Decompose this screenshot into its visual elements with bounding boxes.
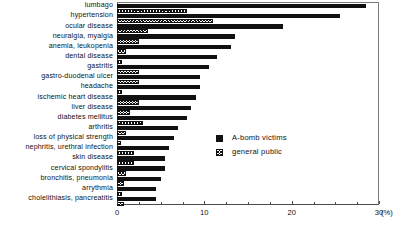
bar-a-bomb-victims <box>117 136 174 140</box>
bar-a-bomb-victims <box>117 65 209 69</box>
x-tick-minor <box>139 202 140 204</box>
bar-a-bomb-victims <box>117 126 178 130</box>
bar-a-bomb-victims <box>117 24 283 28</box>
bar-general-public <box>117 70 139 74</box>
bar-a-bomb-victims <box>117 14 340 18</box>
bar-general-public <box>117 161 134 165</box>
bar-a-bomb-victims <box>117 55 217 59</box>
bar-a-bomb-victims <box>117 75 200 79</box>
category-label: bronchitis, pneumonia <box>0 174 113 182</box>
category-label: skin disease <box>0 153 113 161</box>
bar-group <box>117 106 379 116</box>
bar-a-bomb-victims <box>117 85 200 89</box>
bar-a-bomb-victims <box>117 116 187 120</box>
bar-group <box>117 55 379 65</box>
bar-a-bomb-victims <box>117 106 191 110</box>
bar-general-public <box>117 171 126 175</box>
bar-general-public <box>117 121 143 125</box>
legend-swatch-solid-icon <box>216 135 223 142</box>
bar-a-bomb-victims <box>117 156 165 160</box>
x-tick-minor <box>335 202 336 204</box>
bar-general-public <box>117 19 213 23</box>
category-label: anemia, leukopenia <box>0 42 113 50</box>
x-tick-major <box>204 201 205 204</box>
bar-a-bomb-victims <box>117 187 156 191</box>
category-label: liver disease <box>0 103 113 111</box>
bar-general-public <box>117 29 148 33</box>
bar-general-public <box>117 131 126 135</box>
x-tick-major <box>379 201 380 204</box>
bar-group <box>117 4 379 14</box>
x-axis-unit-label: (%) <box>381 208 393 217</box>
bar-a-bomb-victims <box>117 197 156 201</box>
category-label: lumbago <box>0 1 113 9</box>
legend-swatch-hatch-icon <box>216 149 223 156</box>
bar-group <box>117 65 379 75</box>
bar-a-bomb-victims <box>117 4 366 8</box>
x-tick-minor <box>161 202 162 204</box>
bar-group <box>117 85 379 95</box>
bar-general-public <box>117 100 139 104</box>
category-label: neuralgia, myalgia <box>0 32 113 40</box>
bar-general-public <box>117 80 139 84</box>
x-tick-label: 0 <box>115 208 119 217</box>
bar-group <box>117 45 379 55</box>
category-label: arrythmia <box>0 184 113 192</box>
bar-general-public <box>117 39 139 43</box>
bar-general-public <box>117 90 122 94</box>
bar-group <box>117 75 379 85</box>
bar-a-bomb-victims <box>117 45 231 49</box>
bar-group <box>117 14 379 24</box>
x-tick-minor <box>314 202 315 204</box>
bar-a-bomb-victims <box>117 34 235 38</box>
category-label: arthritis <box>0 123 113 131</box>
bar-group <box>117 24 379 34</box>
legend-label-general-public: general public <box>232 147 282 156</box>
bar-general-public <box>117 141 121 145</box>
category-label: cholelithiasis, pancreatitis <box>0 194 113 202</box>
x-tick-major <box>117 201 118 204</box>
bar-group <box>117 34 379 44</box>
bar-general-public <box>117 49 126 53</box>
bar-general-public <box>117 202 124 206</box>
x-tick-minor <box>270 202 271 204</box>
bar-general-public <box>117 192 122 196</box>
x-tick-minor <box>248 202 249 204</box>
bar-general-public <box>117 60 122 64</box>
x-tick-label: 10 <box>200 208 208 217</box>
plot-area <box>117 2 379 205</box>
category-label: ocular disease <box>0 22 113 30</box>
bar-general-public <box>117 151 134 155</box>
category-label: gastritis <box>0 62 113 70</box>
category-label: diabetes mellitus <box>0 113 113 121</box>
bar-group <box>117 187 379 197</box>
bar-a-bomb-victims <box>117 166 165 170</box>
category-label: loss of physical strength <box>0 133 113 141</box>
bar-a-bomb-victims <box>117 146 169 150</box>
category-label: hypertension <box>0 11 113 19</box>
bar-a-bomb-victims <box>117 177 161 181</box>
bar-group <box>117 156 379 166</box>
x-tick-minor <box>226 202 227 204</box>
bar-group <box>117 95 379 105</box>
bar-general-public <box>117 110 130 114</box>
category-label: headache <box>0 82 113 90</box>
bar-group <box>117 166 379 176</box>
bar-a-bomb-victims <box>117 95 196 99</box>
category-label: gastro-duodenal ulcer <box>0 72 113 80</box>
bar-group <box>117 116 379 126</box>
x-tick-label: 20 <box>287 208 295 217</box>
legend-label-a-bomb-victims: A-bomb victims <box>232 133 287 142</box>
x-tick-minor <box>357 202 358 204</box>
bar-general-public <box>117 181 124 185</box>
category-label: dental disease <box>0 52 113 60</box>
category-label: ischemic heart disease <box>0 93 113 101</box>
bar-general-public <box>117 9 187 13</box>
x-tick-major <box>292 201 293 204</box>
category-label: cervical spondylitis <box>0 164 113 172</box>
bar-group <box>117 177 379 187</box>
x-tick-minor <box>183 202 184 204</box>
category-axis-labels: lumbagohypertensionocular diseaseneuralg… <box>0 0 113 205</box>
category-label: nephritis, urethral infection <box>0 143 113 151</box>
